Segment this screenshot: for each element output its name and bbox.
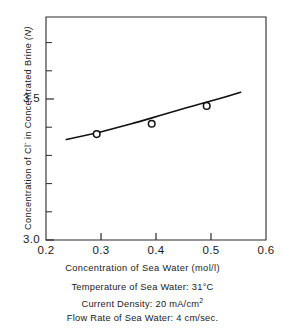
y-axis-label-text-post: in Concentrated Brine: [23, 40, 33, 139]
caption-line-current-density: Current Density: 20 mA/cm2: [0, 294, 285, 311]
data-point-marker: [148, 120, 155, 127]
y-minor-ticks: [46, 43, 52, 212]
data-curve: [66, 92, 240, 139]
y-major-ticks: [46, 99, 54, 240]
y-axis-label-unit: (N): [23, 26, 33, 40]
figure-container: Concentration of Cl- in Concentrated Bri…: [0, 0, 285, 332]
x-tick-label-0-4: 0.4: [139, 244, 173, 256]
caption-line-flow-rate: Flow Rate of Sea Water: 4 cm/sec.: [0, 312, 285, 325]
x-tick-label-0-2: 0.2: [29, 244, 63, 256]
chart-conditions-caption: Temperature of Sea Water: 31°C Current D…: [0, 281, 285, 325]
x-axis-label: Concentration of Sea Water (mol/l): [0, 263, 285, 273]
data-point-marker: [203, 103, 210, 110]
data-point-marker: [93, 131, 100, 138]
data-point-markers: [93, 103, 210, 138]
x-tick-label-0-3: 0.3: [84, 244, 118, 256]
y-tick-label-3-5: 3.5: [14, 92, 40, 104]
x-major-ticks: [101, 233, 211, 240]
y-axis-label-text-pre: Concentration of Cl: [23, 145, 33, 230]
caption-current-density-text: Current Density: 20 mA/cm: [81, 299, 199, 309]
x-tick-label-0-6: 0.6: [249, 244, 283, 256]
x-tick-label-0-5: 0.5: [194, 244, 228, 256]
axis-frame: [46, 17, 266, 240]
caption-line-temperature: Temperature of Sea Water: 31°C: [0, 281, 285, 294]
y-axis-label-superscript: -: [21, 142, 28, 145]
y-axis-label: Concentration of Cl- in Concentrated Bri…: [21, 3, 33, 253]
caption-current-density-superscript: 2: [199, 297, 203, 304]
